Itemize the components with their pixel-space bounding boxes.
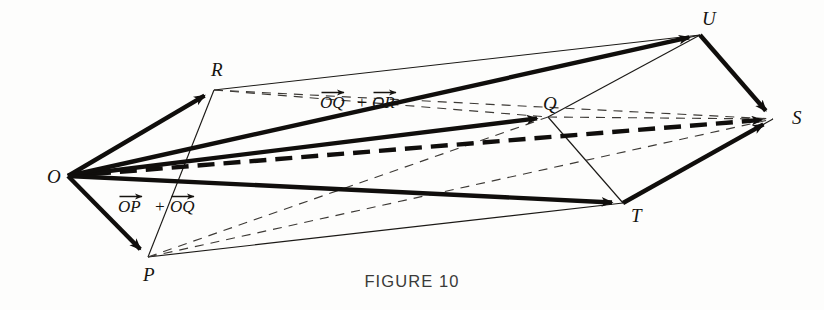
edge-p-to-q-dashed bbox=[148, 117, 548, 257]
vector-o-to-t bbox=[68, 176, 612, 202]
edge-q-to-u bbox=[548, 35, 700, 117]
edge-q-to-s-dashed bbox=[548, 117, 773, 119]
vertex-label-group: OPQRSTU bbox=[47, 8, 802, 285]
edge-p-to-s-dashed bbox=[148, 119, 773, 257]
bold-dashed-vector-group bbox=[68, 120, 762, 176]
label-oq-plus-or-term-oq: OQ bbox=[320, 93, 345, 112]
vector-o-to-q bbox=[68, 118, 537, 176]
label-op-plus-oq-operator: + bbox=[154, 197, 165, 216]
vertex-label-o: O bbox=[47, 166, 61, 187]
label-oq-plus-or: OQ+OR bbox=[320, 93, 396, 113]
vertex-label-u: U bbox=[702, 8, 717, 29]
label-op-plus-oq-term-oq: OQ bbox=[170, 197, 195, 216]
vector-o-to-s bbox=[68, 120, 762, 176]
edge-r-to-u bbox=[214, 35, 700, 90]
vector-t-to-s bbox=[623, 124, 763, 203]
label-oq-plus-or-operator: + bbox=[356, 93, 367, 112]
edge-r-to-s-dashed bbox=[214, 90, 773, 119]
label-oq-plus-or-term-or: OR bbox=[372, 93, 395, 112]
edge-r-to-p-guide bbox=[148, 90, 214, 257]
vertex-label-q: Q bbox=[543, 93, 557, 114]
figure-caption: FIGURE 10 bbox=[0, 272, 824, 291]
vector-u-to-s bbox=[700, 35, 766, 111]
figure-container: OPQRSTU OQ+OROP+OQ FIGURE 10 bbox=[0, 0, 824, 310]
vertex-label-r: R bbox=[210, 59, 223, 80]
edge-p-to-t bbox=[148, 203, 623, 257]
vertex-label-s: S bbox=[792, 107, 802, 128]
vector-parallelepiped-diagram: OPQRSTU OQ+OROP+OQ bbox=[0, 0, 824, 310]
label-op-plus-oq-term-op: OP bbox=[118, 197, 141, 216]
label-op-plus-oq: OP+OQ bbox=[118, 197, 195, 217]
vertex-label-t: T bbox=[631, 205, 643, 226]
